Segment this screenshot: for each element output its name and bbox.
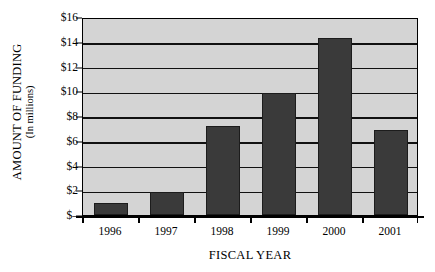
y-axis-title-text: AMOUNT OF FUNDING (In millions) bbox=[10, 44, 36, 181]
y-axis-title: AMOUNT OF FUNDING (In millions) bbox=[0, 0, 46, 224]
y-axis-tick-label: $8 bbox=[44, 111, 78, 123]
x-axis-tick-mark bbox=[306, 216, 308, 223]
x-axis-tick-mark bbox=[82, 216, 84, 223]
x-axis-tick-mark bbox=[362, 216, 364, 223]
y-axis-tick-labels: $–$2$4$6$8$10$12$14$16 bbox=[44, 18, 78, 216]
x-axis-tick-mark bbox=[138, 216, 140, 223]
bars-layer bbox=[83, 19, 417, 215]
x-axis-title: FISCAL YEAR bbox=[82, 248, 418, 263]
bar-1998 bbox=[206, 126, 241, 215]
y-axis-title-main: AMOUNT OF FUNDING bbox=[10, 44, 24, 181]
y-axis-tick-label: $10 bbox=[44, 87, 78, 99]
x-axis-tick-label: 1996 bbox=[99, 226, 122, 238]
y-axis-tick-label: $– bbox=[44, 210, 78, 222]
y-axis-tick-label: $16 bbox=[44, 12, 78, 24]
y-axis-tick-label: $2 bbox=[44, 186, 78, 198]
y-axis-tick-label: $14 bbox=[44, 37, 78, 49]
x-axis-tick-mark bbox=[194, 216, 196, 223]
x-axis-tick-marks bbox=[82, 216, 418, 223]
x-axis-tick-labels: 199619971998199920002001 bbox=[82, 226, 418, 244]
y-axis-tick-label: $6 bbox=[44, 136, 78, 148]
bar-1999 bbox=[262, 93, 297, 216]
bar-chart: AMOUNT OF FUNDING (In millions) $–$2$4$6… bbox=[0, 0, 435, 272]
x-axis-tick-label: 2001 bbox=[379, 226, 402, 238]
bar-1997 bbox=[150, 192, 185, 216]
bar-1996 bbox=[94, 203, 129, 215]
x-axis-tick-mark bbox=[250, 216, 252, 223]
plot-area bbox=[82, 18, 418, 216]
x-axis-tick-label: 1998 bbox=[211, 226, 234, 238]
y-axis-tick-label: $12 bbox=[44, 62, 78, 74]
y-axis-title-units: (In millions) bbox=[24, 44, 36, 181]
x-axis-tick-mark bbox=[417, 216, 419, 223]
bar-2000 bbox=[318, 38, 353, 215]
x-axis-tick-label: 2000 bbox=[323, 226, 346, 238]
x-axis-tick-label: 1997 bbox=[155, 226, 178, 238]
bar-2001 bbox=[374, 130, 409, 215]
x-axis-tick-label: 1999 bbox=[267, 226, 290, 238]
y-axis-tick-label: $4 bbox=[44, 161, 78, 173]
